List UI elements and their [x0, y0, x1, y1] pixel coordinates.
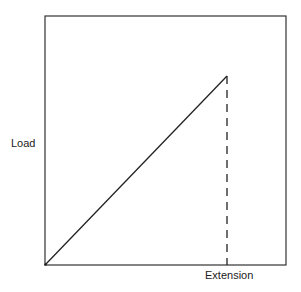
origin-point	[44, 263, 46, 265]
load-line	[45, 76, 227, 265]
load-extension-diagram	[0, 0, 301, 292]
x-axis-label: Extension	[205, 270, 253, 281]
y-axis-label: Load	[11, 138, 35, 149]
